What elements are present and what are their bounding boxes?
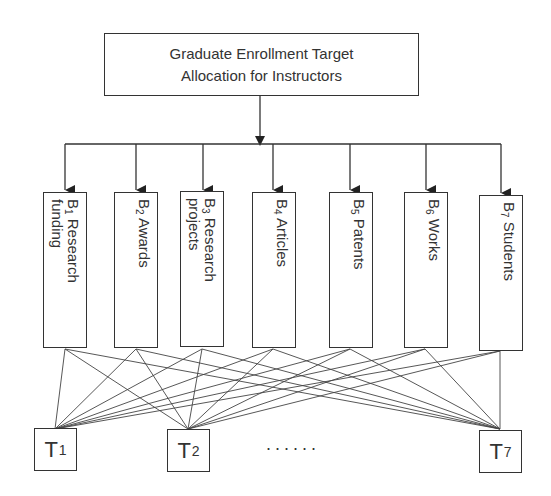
criterion-box-b7: B7 Students bbox=[479, 195, 523, 351]
root-goal-line1: Graduate Enrollment Target bbox=[170, 43, 354, 65]
criterion-label: B6 Works bbox=[426, 199, 442, 261]
criterion-label: B3 Research projects bbox=[186, 198, 218, 282]
hierarchy-arrows bbox=[65, 96, 501, 193]
criterion-box-b2: B2 Awards bbox=[114, 192, 158, 348]
target-letter: T bbox=[177, 438, 190, 464]
target-letter: T bbox=[489, 439, 502, 465]
bipartite-edges bbox=[55, 349, 500, 429]
criterion-box-b4: B4 Articles bbox=[252, 192, 296, 348]
criterion-box-b1: B1 Research funding bbox=[43, 192, 87, 348]
criterion-label: B1 Research funding bbox=[49, 199, 81, 283]
target-letter: T bbox=[44, 437, 57, 463]
ellipsis: ...... bbox=[266, 434, 320, 455]
criterion-box-b3: B3 Research projects bbox=[180, 191, 224, 347]
target-box-t1: T1 bbox=[34, 428, 77, 471]
root-goal-box: Graduate Enrollment Target Allocation fo… bbox=[104, 33, 419, 96]
target-box-t2: T2 bbox=[167, 429, 210, 472]
target-box-t7: T7 bbox=[479, 430, 522, 473]
criterion-box-b6: B6 Works bbox=[404, 192, 448, 348]
criterion-label: B5 Patents bbox=[351, 199, 367, 270]
criterion-box-b5: B5 Patents bbox=[329, 192, 373, 348]
criterion-label: B7 Students bbox=[501, 202, 517, 281]
criterion-label: B2 Awards bbox=[136, 199, 152, 268]
criterion-label: B4 Articles bbox=[274, 199, 290, 267]
root-goal-line2: Allocation for Instructors bbox=[181, 65, 342, 87]
